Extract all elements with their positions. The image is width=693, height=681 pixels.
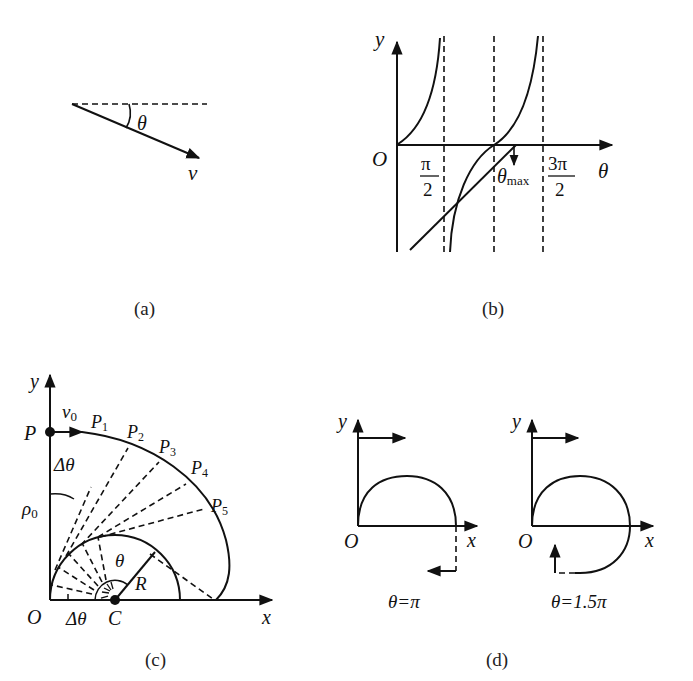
- point-P3-label: P3: [158, 437, 176, 459]
- y-axis-label: y: [336, 410, 347, 433]
- theta-1-5pi-label: θ=1.5π: [551, 591, 607, 612]
- tick-pi-numerator: π: [421, 153, 431, 174]
- spoke: [68, 553, 98, 586]
- delta-theta-top-label: Δθ: [53, 454, 74, 475]
- subfigure-theta-pi: y O x O θ=π: [336, 410, 477, 612]
- point-P2-label: P2: [126, 422, 144, 444]
- delta-theta-bottom-label: Δθ: [65, 608, 86, 629]
- caption-a: (a): [134, 298, 155, 320]
- angle-theta-label: θ: [137, 112, 147, 134]
- outer-trajectory-curve: [82, 432, 229, 600]
- spoke: [82, 543, 102, 582]
- spoke: [58, 567, 94, 590]
- ray-to-P4: [98, 484, 186, 537]
- delta-theta-arc-icon: [50, 494, 74, 499]
- origin-label: O: [344, 530, 358, 552]
- caption-d: (d): [486, 649, 508, 671]
- origin-label: O: [372, 147, 387, 171]
- center-C-label: C: [108, 607, 122, 629]
- origin-label: O: [518, 530, 532, 552]
- theta-max-label: θmax: [497, 165, 530, 188]
- point-P5-label: P5: [210, 496, 228, 518]
- ray-to-x-axis: [150, 554, 213, 599]
- rho0-label: ρ0: [21, 498, 38, 521]
- panel-b: y O θ π 2 3π 2 θmax (b): [372, 27, 612, 320]
- spoke: [98, 537, 106, 580]
- origin-label: O: [27, 606, 41, 628]
- caption-b: (b): [482, 298, 504, 320]
- three-quarter-circle-trajectory: [532, 476, 630, 573]
- semicircle-trajectory: [358, 476, 456, 526]
- theta-label: θ: [115, 550, 124, 571]
- point-P1-label: P1: [90, 412, 108, 434]
- theta-axis-label: θ: [598, 159, 608, 183]
- panel-d: y O x O θ=π y x O θ=1.5π (d): [336, 410, 654, 671]
- subfigure-theta-1-5pi: y x O θ=1.5π: [510, 410, 654, 612]
- point-P4-label: P4: [190, 458, 208, 480]
- point-P-dot: [45, 427, 55, 437]
- panel-c: y x O C P v0 ρ0 Δθ Δθ θ R P1 P2 P3 P4 P5…: [21, 370, 272, 671]
- tick-pi-denominator: 2: [423, 179, 433, 200]
- panel-a: θ v (a): [72, 104, 207, 320]
- ray-to-P1: [55, 487, 91, 570]
- x-axis-label: x: [466, 529, 476, 551]
- angle-arc-icon: [126, 104, 130, 128]
- y-axis-label: y: [510, 410, 521, 433]
- x-axis-label: x: [644, 529, 654, 551]
- ray-to-P2: [66, 448, 128, 556]
- y-axis-label: y: [28, 370, 39, 393]
- y-axis-label: y: [373, 27, 385, 51]
- ray-to-P3: [81, 462, 159, 545]
- caption-c: (c): [145, 649, 166, 671]
- tan-curve-branch-1: [398, 38, 440, 144]
- radius-R-label: R: [134, 573, 147, 594]
- tick-3pi-numerator: 3π: [548, 153, 568, 174]
- point-P-label: P: [23, 422, 36, 444]
- physics-figure: θ v (a) y O θ π 2 3π 2 θmax (b): [0, 0, 693, 681]
- spoke: [52, 585, 92, 594]
- velocity-label: v: [188, 161, 198, 185]
- ray-to-P5: [100, 509, 204, 537]
- x-axis-label: x: [261, 606, 271, 628]
- tick-3pi-denominator: 2: [555, 179, 565, 200]
- velocity-vector-arrow: [72, 104, 199, 158]
- theta-pi-label: θ=π: [388, 591, 420, 612]
- velocity-v0-label: v0: [62, 401, 77, 424]
